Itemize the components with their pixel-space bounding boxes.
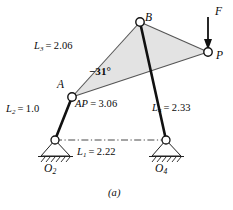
dimension-label-AP: AP = 3.06 [75,99,117,110]
point-label-P: P [216,50,223,62]
link-L2-crank [55,97,72,140]
joint-B [136,18,144,26]
l3-equals: = [43,40,53,51]
point-label-B: B [145,12,152,24]
o2-subscript: 2 [52,167,56,176]
l2-value: 1.0 [26,103,39,114]
l4-equals: = [161,102,171,113]
ap-equals: = [88,98,98,109]
dimension-label-L4: L4 = 2.33 [152,103,191,115]
l3-value: 2.06 [54,40,73,51]
angle-label: −31° [89,66,111,77]
dimension-label-L3: L3 = 2.06 [34,41,73,53]
ap-value: 3.06 [98,98,117,109]
dimension-label-L2: L2 = 1.0 [6,104,39,116]
fourbar-linkage-figure: B P A F O2 O4 L3 = 2.06 L2 = 1.0 L4 = 2.… [0,0,233,210]
point-label-A: A [57,79,64,91]
force-arrow-F [204,17,212,50]
joint-P [204,48,212,56]
ground-pivot-label-O2: O2 [44,163,56,175]
coupler-triangle-fill [72,22,208,97]
ground-pivot-label-O4: O4 [155,163,167,175]
dimension-label-L1: L1 = 2.22 [77,147,116,159]
l4-value: 2.33 [172,102,191,113]
ground-support-O2 [38,136,73,162]
l1-equals: = [86,146,96,157]
ap-name: AP [75,98,88,109]
l2-equals: = [15,103,25,114]
l1-value: 2.22 [97,146,116,157]
o4-subscript: 4 [163,167,167,176]
force-label-F: F [215,6,222,18]
figure-caption: (a) [108,188,121,199]
